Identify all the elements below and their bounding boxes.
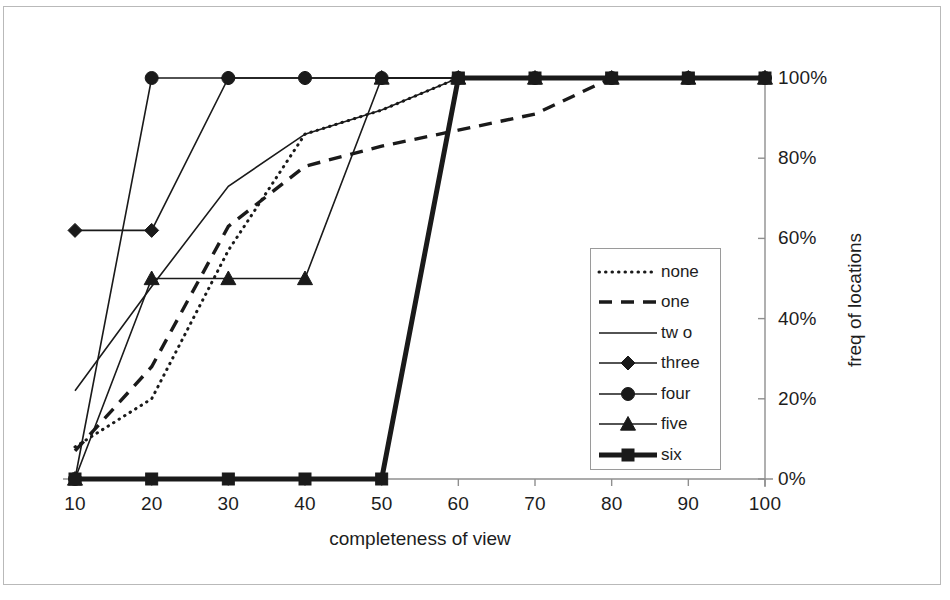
x-tick-label: 90 <box>678 493 700 515</box>
x-tick-label: 20 <box>141 493 163 515</box>
legend-swatch <box>597 352 659 374</box>
series-marker <box>222 473 234 485</box>
x-tick-label: 10 <box>64 493 86 515</box>
x-tick-label: 40 <box>294 493 316 515</box>
y-tick-label: 100% <box>778 67 827 89</box>
legend-label: six <box>661 445 682 465</box>
series-marker <box>759 72 771 84</box>
legend-item-none[interactable]: none <box>591 256 722 287</box>
x-tick-label: 70 <box>524 493 546 515</box>
y-tick-label: 0% <box>778 468 806 490</box>
legend-item-four[interactable]: four <box>591 378 722 409</box>
legend-swatch <box>597 261 659 283</box>
legend-item-six[interactable]: six <box>591 439 722 470</box>
y-axis-title: freq of locations <box>844 233 866 367</box>
series-line <box>75 78 765 230</box>
y-tick-label: 80% <box>778 147 817 169</box>
series-marker <box>145 72 158 85</box>
y-tick-label: 60% <box>778 227 817 249</box>
legend-item-three[interactable]: three <box>591 348 722 379</box>
series-marker <box>606 72 618 84</box>
legend-marker-circle <box>622 387 635 400</box>
series-marker <box>68 223 82 237</box>
legend-label: tw o <box>661 323 692 343</box>
y-tick-label: 40% <box>778 308 817 330</box>
chart-figure: 102030405060708090100 0%20%40%60%80%100%… <box>0 0 950 600</box>
legend-label: none <box>661 262 699 282</box>
legend-label: five <box>661 414 687 434</box>
legend-label: three <box>661 353 700 373</box>
series-marker <box>299 72 312 85</box>
legend-label: four <box>661 384 690 404</box>
series-three <box>68 71 772 237</box>
series-marker <box>145 223 159 237</box>
x-axis-title: completeness of view <box>329 528 511 550</box>
legend-label: one <box>661 292 689 312</box>
y-tick-label: 20% <box>778 388 817 410</box>
legend-marker-square <box>622 449 634 461</box>
legend-swatch <box>597 413 659 435</box>
legend-swatch <box>597 383 659 405</box>
series-marker <box>146 473 158 485</box>
legend-swatch <box>597 444 659 466</box>
series-marker <box>529 72 541 84</box>
series-marker <box>69 473 81 485</box>
legend-swatch <box>597 322 659 344</box>
series-marker <box>452 72 464 84</box>
legend-item-five[interactable]: five <box>591 409 722 440</box>
series-marker <box>222 72 235 85</box>
legend-swatch <box>597 291 659 313</box>
legend-item-two[interactable]: tw o <box>591 317 722 348</box>
series-marker <box>682 72 694 84</box>
legend-item-one[interactable]: one <box>591 287 722 318</box>
x-tick-label: 50 <box>371 493 393 515</box>
legend-marker-diamond <box>621 356 635 370</box>
x-tick-label: 60 <box>448 493 470 515</box>
x-tick-label: 30 <box>218 493 240 515</box>
series-marker <box>299 473 311 485</box>
x-tick-label: 100 <box>749 493 781 515</box>
series-marker <box>376 473 388 485</box>
x-tick-label: 80 <box>601 493 623 515</box>
legend: noneonetw othreefourfivesix <box>590 248 721 470</box>
